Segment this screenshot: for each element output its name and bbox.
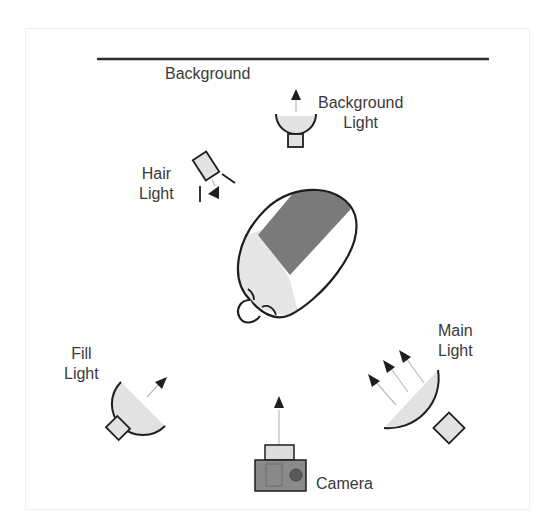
main-light-label-line2: Light	[438, 341, 473, 361]
fill-light-icon	[106, 377, 167, 440]
background-light-label-line1: Background	[318, 93, 403, 113]
lighting-diagram	[0, 0, 560, 532]
fill-light-label-line1: Fill	[64, 344, 99, 364]
hair-light-label-line2: Light	[139, 184, 174, 204]
camera-icon	[255, 396, 306, 491]
background-label: Background	[165, 64, 250, 84]
fill-light-label: Fill Light	[64, 344, 99, 384]
subject-head-icon	[220, 170, 380, 330]
hair-light-label: Hair Light	[139, 164, 174, 204]
background-light-icon	[276, 89, 316, 147]
camera-label: Camera	[316, 474, 373, 494]
background-light-label: Background Light	[318, 93, 403, 133]
background-light-label-line2: Light	[318, 113, 403, 133]
hair-light-label-line1: Hair	[139, 164, 174, 184]
main-light-label: Main Light	[438, 321, 473, 361]
main-light-icon	[368, 350, 465, 444]
hair-light-icon	[193, 152, 235, 202]
fill-light-label-line2: Light	[64, 364, 99, 384]
main-light-label-line1: Main	[438, 321, 473, 341]
